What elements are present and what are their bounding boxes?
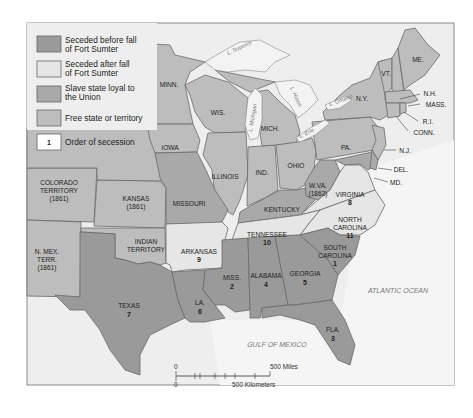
order-texas: 7 [127, 311, 131, 318]
scale-miles-label: 500 Miles [270, 363, 299, 370]
label-new-mexico: N. MEX. [35, 248, 60, 255]
label-ohio: OHIO [288, 162, 305, 169]
label-michigan: MICH. [261, 125, 280, 132]
label-indian-territory-2: TERRITORY [127, 246, 165, 253]
order-virginia: 8 [348, 199, 352, 206]
legend-label-order: Order of secession [65, 137, 135, 147]
legend-swatch-seceded-before [37, 36, 61, 52]
order-north-carolina: 11 [346, 232, 354, 239]
label-south-carolina-2: CAROLINA [318, 252, 352, 259]
scale-zero-miles: 0 [174, 363, 178, 370]
state-connecticut [386, 103, 400, 118]
label-florida: FLA. [326, 326, 340, 333]
legend-swatch-seceded-after [37, 61, 61, 77]
label-colorado-year: (1861) [49, 195, 68, 203]
label-mississippi: MISS. [223, 274, 241, 281]
order-tennessee: 10 [263, 239, 271, 246]
legend-label-seceded-before-2: of Fort Sumter [65, 44, 118, 54]
label-maine: ME. [412, 56, 424, 63]
order-alabama: 4 [264, 281, 268, 288]
label-delaware: DEL. [394, 166, 409, 173]
label-kansas-year: (1861) [126, 203, 145, 211]
label-colorado: COLORADO [40, 179, 78, 186]
legend-label-seceded-after-2: of Fort Sumter [65, 68, 118, 78]
legend-label-free: Free state or territory [65, 113, 143, 123]
label-connecticut: CONN. [413, 129, 434, 136]
scale-zero-km: 0 [174, 381, 178, 388]
label-new-hampshire: N.H. [423, 90, 436, 97]
label-kentucky: KENTUCKY [264, 206, 301, 213]
legend-swatch-slave-loyal [37, 86, 61, 102]
label-gulf-of-mexico: GULF OF MEXICO [247, 341, 307, 348]
label-missouri: MISSOURI [173, 200, 206, 207]
label-tennessee: TENNESSEE [247, 231, 288, 238]
state-rhode-island [400, 103, 406, 114]
label-new-mexico-year: (1861) [37, 264, 56, 272]
label-wisconsin: WIS. [211, 109, 225, 116]
label-new-jersey: N.J. [399, 147, 411, 154]
label-new-york: N.Y. [356, 95, 368, 102]
label-pennsylvania: PA. [341, 144, 351, 151]
order-florida: 3 [331, 335, 335, 342]
label-north-carolina-2: CAROLINA [333, 224, 367, 231]
label-indian-territory: INDIAN [135, 238, 158, 245]
order-georgia: 5 [303, 279, 307, 286]
label-minnesota: MINN. [160, 81, 179, 88]
label-west-virginia: W.VA. [309, 182, 327, 189]
label-massachusetts: MASS. [426, 101, 447, 108]
order-mississippi: 2 [230, 283, 234, 290]
label-rhode-island: R.I. [423, 118, 433, 125]
legend-order-sample: 1 [47, 139, 51, 146]
order-south-carolina: 1 [333, 260, 337, 267]
label-indiana: IND. [255, 169, 268, 176]
label-georgia: GEORGIA [290, 270, 321, 277]
label-maryland: MD. [390, 179, 402, 186]
label-west-virginia-year: (1863) [308, 190, 327, 198]
label-alabama: ALABAMA [250, 272, 282, 279]
label-louisiana: LA. [195, 299, 205, 306]
order-arkansas: 9 [197, 256, 201, 263]
label-illinois: ILLINOIS [211, 173, 239, 180]
label-texas: TEXAS [118, 302, 140, 309]
label-arkansas: ARKANSAS [181, 248, 218, 255]
label-north-carolina: NORTH [338, 216, 362, 223]
label-virginia: VIRGINIA [336, 191, 366, 198]
legend-swatch-free [37, 110, 61, 126]
label-south-carolina: SOUTH [323, 244, 346, 251]
label-atlantic-ocean: ATLANTIC OCEAN [367, 287, 429, 294]
label-vermont: VT. [381, 70, 391, 77]
scale-km-label: 500 Kilometers [232, 381, 276, 388]
label-kansas: KANSAS [123, 195, 150, 202]
order-louisiana: 6 [198, 308, 202, 315]
label-new-mexico-2: TERR. [37, 256, 57, 263]
label-colorado-2: TERRITORY [40, 187, 78, 194]
secession-map: L. Superior L. Michigan L. Huron L. Erie… [0, 0, 473, 418]
state-arkansas [166, 222, 228, 272]
label-iowa: IOWA [161, 144, 179, 151]
legend-label-slave-loyal-2: the Union [65, 92, 101, 102]
